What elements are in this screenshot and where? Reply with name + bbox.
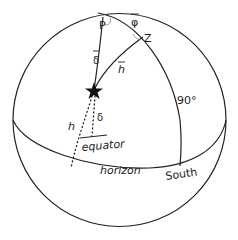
angle-at-pole: [105, 18, 111, 25]
celestial-sphere-diagram: P Z φ δ h 90° h δ equator horizon South: [0, 0, 238, 240]
label-zenith-distance: h: [118, 63, 125, 76]
star-icon: [85, 82, 103, 99]
label-colatitude: φ: [131, 16, 138, 29]
label-polar-distance: δ: [93, 55, 99, 66]
label-equator: equator: [81, 137, 126, 154]
label-declination: δ: [97, 112, 103, 123]
label-pole: P: [99, 19, 106, 32]
label-right-angle: 90°: [177, 94, 197, 107]
equator-line: [80, 135, 107, 138]
label-horizon: horizon: [100, 164, 141, 177]
label-south: South: [165, 166, 198, 183]
sphere-outline: [13, 14, 226, 227]
label-zenith: Z: [144, 32, 152, 45]
label-altitude: h: [68, 120, 75, 133]
declination-dotted: [92, 96, 95, 136]
